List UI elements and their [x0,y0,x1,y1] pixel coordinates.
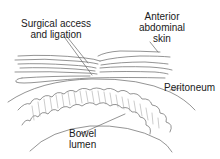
label-anterior-abdominal-skin: Anterior abdominal skin [132,11,192,44]
label-bowel-line1: Bowel [69,128,96,139]
bowel-outer-wall [18,88,171,132]
label-anterior-line1: Anterior [132,11,192,22]
label-surgical-access: Surgical access and ligation [15,18,97,40]
label-anterior-line3: skin [132,33,192,44]
label-peritoneum: Peritoneum [164,82,215,93]
label-bowel-line2: lumen [69,139,96,150]
label-surgical-line1: Surgical access [15,18,97,29]
surgical-diagram: Surgical access and ligation Anterior ab… [0,0,220,159]
leader-surgical-2 [68,38,88,63]
label-surgical-line2: and ligation [15,29,97,40]
abdominal-wall-layers [15,51,172,83]
label-anterior-line2: abdominal [132,22,192,33]
label-bowel-lumen: Bowel lumen [69,128,96,150]
